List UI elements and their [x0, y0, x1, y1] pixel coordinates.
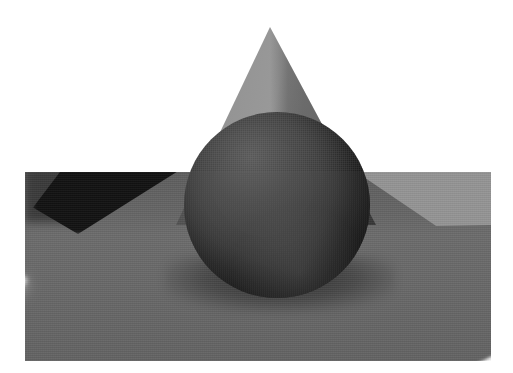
sphere-object [184, 112, 370, 298]
image-alt-text: A dark matte sphere resting on a gray fl… [0, 0, 1, 1]
sphere-grain [184, 112, 370, 298]
image-title: Ray-traced grayscale scene: sphere, cone… [0, 0, 1, 1]
image-canvas: A dark matte sphere resting on a gray fl… [0, 0, 513, 373]
